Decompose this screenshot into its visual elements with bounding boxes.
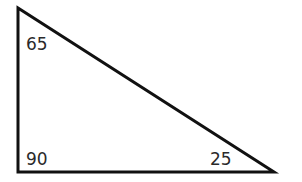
angle-label-top: 65 [26,36,48,53]
angle-label-bottom-right: 25 [210,151,232,168]
angle-label-right-angle: 90 [26,151,48,168]
